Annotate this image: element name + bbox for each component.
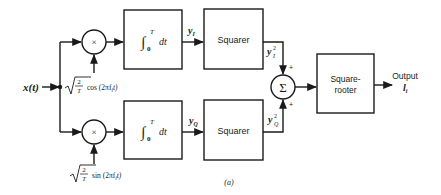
upper-multiplier-symbol: × xyxy=(91,37,96,47)
integral-sign-icon: ∫ xyxy=(140,124,147,141)
upper-limit: T xyxy=(150,118,155,126)
lower-integrator-box xyxy=(124,101,182,159)
sqrt-numerator: 2 xyxy=(82,166,86,174)
y-q-label: yQ xyxy=(188,115,198,127)
cos-prefix: cos (2πf xyxy=(87,83,112,92)
cos-suffix: t) xyxy=(113,83,118,92)
y-i-label: yI xyxy=(187,25,195,37)
sqrt-numerator: 2 xyxy=(77,78,81,86)
integrand-dt: dt xyxy=(159,126,167,137)
sqrt-denominator: T xyxy=(82,175,86,182)
upper-integrator-box xyxy=(124,10,182,69)
lower-squarer-to-summer-arrow xyxy=(263,100,283,132)
svg-text:I: I xyxy=(272,53,276,59)
sin-suffix: t) xyxy=(117,171,122,180)
quadrature-detector-diagram: x(t) × × 2 T cos (2πfit) 2 T sin (2πfit)… xyxy=(0,0,441,195)
sin-prefix: sin (2πf xyxy=(92,171,116,180)
svg-text:cos (2πfit): cos (2πfit) xyxy=(87,83,118,93)
output-label: Output xyxy=(392,71,418,81)
svg-text:sin (2πfit): sin (2πfit) xyxy=(92,171,122,181)
lower-limit: 0 xyxy=(147,135,151,143)
output-l-i: li xyxy=(403,82,408,94)
upper-plus-sign: + xyxy=(289,64,293,71)
svg-text:2: 2 xyxy=(274,113,277,119)
lower-limit: 0 xyxy=(147,45,151,53)
svg-text:2: 2 xyxy=(273,45,276,51)
upper-limit: T xyxy=(150,28,155,36)
figure-caption: (a) xyxy=(224,178,234,187)
junction-dot xyxy=(58,85,62,89)
svg-text:y: y xyxy=(267,114,273,125)
square-rooter-line2: rooter xyxy=(334,85,356,95)
svg-text:y: y xyxy=(266,46,272,57)
lower-squarer-label: Squarer xyxy=(217,126,249,136)
square-rooter-line1: Square- xyxy=(330,74,360,84)
integral-sign-icon: ∫ xyxy=(140,34,147,51)
input-label: x(t) xyxy=(22,81,39,94)
lower-plus-sign: + xyxy=(289,101,293,108)
integrand-dt: dt xyxy=(159,36,167,47)
cos-reference-label: 2 T cos (2πfit) xyxy=(65,77,118,94)
lower-integrator-label: ∫ T 0 dt xyxy=(140,118,167,143)
lower-multiplier-symbol: × xyxy=(91,127,96,137)
upper-integrator-label: ∫ T 0 dt xyxy=(140,28,167,53)
y-q-squared-label: y 2 Q xyxy=(267,113,279,127)
svg-text:Q: Q xyxy=(274,121,279,127)
sin-reference-label: 2 T sin (2πfit) xyxy=(70,165,122,182)
y-i-squared-label: y 2 I xyxy=(266,45,276,59)
upper-squarer-label: Squarer xyxy=(217,35,249,45)
sqrt-denominator: T xyxy=(77,87,81,94)
sigma-icon: Σ xyxy=(279,80,287,95)
